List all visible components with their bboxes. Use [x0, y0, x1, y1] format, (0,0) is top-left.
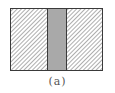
- diagram-figure: (a): [0, 0, 115, 93]
- figure-caption: (a): [0, 75, 115, 88]
- center-gray-band: [48, 9, 67, 71]
- right-hatched-region: [67, 9, 103, 71]
- left-hatched-region: [11, 9, 48, 71]
